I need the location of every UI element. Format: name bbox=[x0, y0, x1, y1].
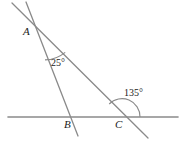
geometry-figure: A B C 25° 135° bbox=[0, 0, 183, 143]
point-label-b: B bbox=[64, 119, 71, 130]
angle-label-25-degrees: 25° bbox=[51, 58, 65, 68]
point-label-c: C bbox=[115, 119, 122, 130]
figure-canvas bbox=[0, 0, 183, 143]
angle-label-135-degrees: 135° bbox=[124, 88, 143, 98]
line-through-a-and-b bbox=[26, 2, 78, 136]
point-label-a: A bbox=[23, 26, 30, 37]
